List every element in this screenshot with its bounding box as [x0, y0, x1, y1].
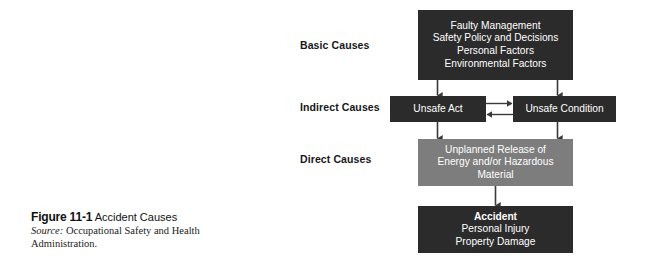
node-basic-causes-line-3: Personal Factors: [457, 45, 534, 58]
node-basic-causes: Faulty Management Safety Policy and Deci…: [418, 10, 573, 80]
node-unsafe-condition: Unsafe Condition: [513, 96, 616, 122]
figure-accident-causes: Basic Causes Indirect Causes Direct Caus…: [0, 0, 652, 265]
caption-source-label: Source:: [31, 225, 63, 236]
node-direct-causes: Unplanned Release of Energy and/or Hazar…: [418, 139, 573, 186]
node-basic-causes-line-4: Environmental Factors: [445, 58, 547, 71]
node-accident-line-1: Personal Injury: [462, 223, 530, 236]
caption-figure-title: Accident Causes: [95, 211, 178, 223]
node-accident-line-2: Property Damage: [456, 236, 536, 249]
node-accident: Accident Personal Injury Property Damage: [418, 206, 573, 253]
node-unsafe-act: Unsafe Act: [390, 96, 486, 122]
figure-caption: Figure 11-1 Accident Causes Source: Occu…: [31, 210, 266, 250]
caption-title-line: Figure 11-1 Accident Causes: [31, 210, 266, 224]
node-direct-causes-line-1: Unplanned Release of: [445, 144, 546, 157]
node-basic-causes-line-2: Safety Policy and Decisions: [433, 32, 559, 45]
node-unsafe-act-label: Unsafe Act: [413, 103, 462, 116]
node-direct-causes-line-2: Energy and/or Hazardous: [437, 156, 553, 169]
caption-figure-number: Figure 11-1: [31, 210, 92, 224]
node-direct-causes-line-3: Material: [477, 169, 513, 182]
node-unsafe-condition-label: Unsafe Condition: [525, 103, 603, 116]
node-accident-heading: Accident: [474, 211, 517, 224]
caption-source: Source: Occupational Safety and Health A…: [31, 225, 266, 250]
node-basic-causes-line-1: Faulty Management: [450, 20, 540, 33]
